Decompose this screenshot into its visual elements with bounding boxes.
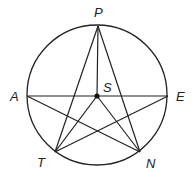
center-point-s <box>94 93 99 98</box>
segment-ST <box>55 96 97 152</box>
label-S: S <box>103 80 112 95</box>
label-P: P <box>94 5 103 20</box>
label-T: T <box>37 155 46 170</box>
label-A: A <box>9 89 19 104</box>
segment-AN <box>27 96 140 152</box>
segment-PT <box>55 26 98 152</box>
label-E: E <box>176 89 185 104</box>
geometry-diagram: PAETNS <box>0 0 196 175</box>
segment-SN <box>97 96 140 152</box>
label-N: N <box>146 156 156 171</box>
segment-ET <box>55 96 168 152</box>
segment-PS <box>97 26 98 96</box>
